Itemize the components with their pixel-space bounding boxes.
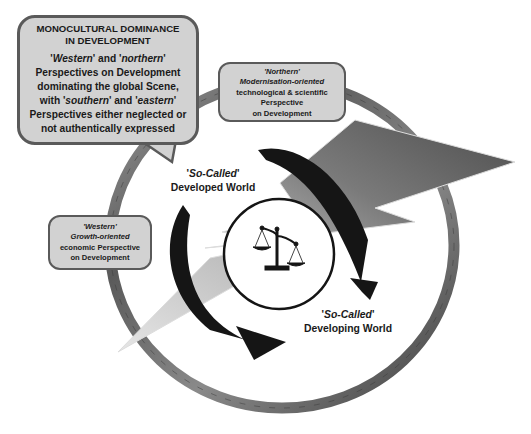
word-northern: northern (121, 53, 163, 64)
text: ' and ' (93, 53, 122, 64)
callout-title-line2: IN DEVELOPMENT (24, 35, 192, 47)
so-called: So-Called (324, 309, 372, 320)
callout-line4: with 'southern' and 'eastern' (24, 94, 192, 108)
text: ' and ' (109, 95, 138, 106)
word-southern: southern (65, 95, 109, 106)
center-circle (224, 199, 334, 309)
word-eastern: eastern (138, 95, 174, 106)
main-callout: MONOCULTURAL DOMINANCE IN DEVELOPMENT 'W… (17, 15, 199, 145)
text: with ' (40, 95, 66, 106)
callout-line3: dominating the global Scene, (24, 80, 192, 94)
northern-line5: on Development (222, 109, 342, 119)
word-western: Western (53, 53, 93, 64)
western-line3: economic Perspective (52, 243, 148, 253)
western-subtitle: Growth-oriented (70, 232, 129, 241)
quote: ' (237, 168, 239, 179)
callout-line1: 'Western' and 'northern' (24, 52, 192, 66)
callout-title-line1: MONOCULTURAL DOMINANCE (24, 23, 192, 35)
callout-line5: Perspectives either neglected or (24, 108, 192, 122)
western-perspective-box: 'Western' Growth-oriented economic Persp… (48, 215, 152, 270)
northern-line4: Perspective (222, 98, 342, 108)
western-title: 'Western' (83, 222, 116, 231)
callout-line2: Perspectives on Development (24, 66, 192, 80)
quote: ' (174, 95, 176, 106)
northern-title: 'Northern' (264, 67, 300, 76)
developing-world-label: 'So-Called' Developing World (288, 308, 408, 335)
northern-perspective-box: 'Northern' Modernisation-oriented techno… (218, 62, 346, 122)
diagram-stage: MONOCULTURAL DOMINANCE IN DEVELOPMENT 'W… (0, 0, 531, 434)
western-line4: on Development (52, 253, 148, 263)
developing-world-text: Developing World (288, 322, 408, 336)
northern-line3: technological & scientific (222, 88, 342, 98)
so-called: So-Called (189, 168, 237, 179)
quote: ' (372, 309, 374, 320)
developed-world-label: 'So-Called' Developed World (158, 167, 268, 194)
developed-world-text: Developed World (158, 181, 268, 195)
callout-line6: not authentically expressed (24, 122, 192, 136)
quote: ' (163, 53, 165, 64)
northern-subtitle: Modernisation-oriented (240, 77, 324, 86)
